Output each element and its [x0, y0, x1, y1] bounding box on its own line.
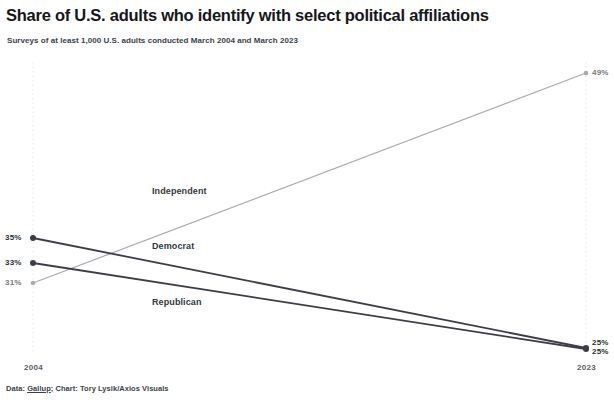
series-line-republican [33, 263, 586, 349]
value-label-independent-2004: 31% [5, 278, 22, 287]
footer-suffix: ; Chart: Tory Lysik/Axios Visuals [51, 384, 169, 393]
x-axis-tick-2004: 2004 [24, 363, 43, 372]
value-label-democrat-2004: 35% [5, 233, 22, 242]
series-line-democrat [33, 238, 586, 348]
data-point-democrat-2004 [30, 235, 36, 241]
series-label-independent: Independent [152, 186, 207, 196]
value-label-republican-2004: 33% [5, 258, 22, 267]
chart-source-footer: Data: Gallup; Chart: Tory Lysik/Axios Vi… [6, 384, 169, 393]
footer-source-link[interactable]: Gallup [27, 384, 51, 393]
series-label-democrat: Democrat [152, 241, 194, 251]
line-chart-plot [0, 0, 614, 402]
value-label-democrat-2023: 25% [592, 338, 609, 347]
chart-svg [0, 0, 614, 402]
data-point-independent-2004 [31, 281, 36, 286]
series-line-independent [33, 73, 586, 283]
x-axis-tick-2023: 2023 [577, 363, 596, 372]
data-point-republican-2023 [583, 346, 589, 352]
chart-page: Share of U.S. adults who identify with s… [0, 0, 614, 402]
data-point-independent-2023 [584, 71, 589, 76]
footer-prefix: Data: [6, 384, 27, 393]
value-label-republican-2023: 25% [592, 347, 609, 356]
value-label-independent-2023: 49% [592, 68, 609, 77]
series-label-republican: Republican [152, 297, 202, 307]
data-point-republican-2004 [30, 260, 36, 266]
